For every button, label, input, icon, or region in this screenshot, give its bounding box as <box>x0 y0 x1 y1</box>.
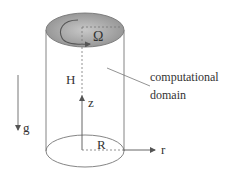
r-axis-label: r <box>161 142 166 157</box>
bottom-ellipse <box>46 135 124 167</box>
top-ellipse <box>46 13 124 47</box>
domain-label-line2: domain <box>150 88 186 102</box>
z-axis-label: z <box>88 95 94 110</box>
height-label: H <box>66 72 75 87</box>
domain-label-line1: computational <box>150 70 219 84</box>
radius-label: R <box>97 137 106 152</box>
domain-leader-line <box>107 68 150 86</box>
diagram-svg: Ω H z g R r computational domain <box>0 0 244 179</box>
gravity-label: g <box>23 120 30 135</box>
omega-label: Ω <box>93 29 103 44</box>
cylinder-diagram: Ω H z g R r computational domain <box>0 0 244 179</box>
